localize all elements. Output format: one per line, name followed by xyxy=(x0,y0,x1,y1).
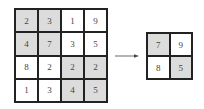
input-cell: 2 xyxy=(15,9,38,32)
input-cell: 3 xyxy=(61,32,84,55)
input-cell: 2 xyxy=(38,56,61,79)
input-cell: 9 xyxy=(84,9,107,32)
input-cell: 8 xyxy=(15,56,38,79)
input-matrix: 2 3 1 9 4 7 3 5 8 2 2 2 1 3 4 5 xyxy=(14,8,108,103)
input-cell: 5 xyxy=(84,79,107,102)
input-cell: 5 xyxy=(84,32,107,55)
input-cell: 1 xyxy=(15,79,38,102)
input-cell: 4 xyxy=(61,79,84,102)
output-cell: 5 xyxy=(170,56,193,79)
arrow-right-icon xyxy=(115,54,139,58)
output-cell: 7 xyxy=(147,33,170,56)
output-matrix: 7 9 8 5 xyxy=(146,32,193,80)
input-cell: 7 xyxy=(38,32,61,55)
input-cell: 1 xyxy=(61,9,84,32)
input-cell: 2 xyxy=(84,56,107,79)
input-cell: 3 xyxy=(38,9,61,32)
output-cell: 8 xyxy=(147,56,170,79)
input-cell: 4 xyxy=(15,32,38,55)
input-cell: 3 xyxy=(38,79,61,102)
input-cell: 2 xyxy=(61,56,84,79)
output-cell: 9 xyxy=(170,33,193,56)
